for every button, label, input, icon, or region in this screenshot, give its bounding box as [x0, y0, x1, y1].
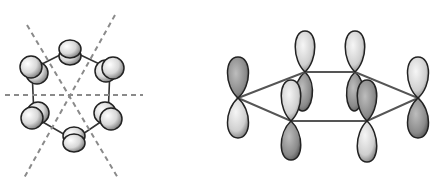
ring-bonds-side [238, 72, 418, 121]
benzene-orbital-diagram [0, 0, 435, 184]
symmetry-axes [5, 15, 143, 178]
side-view [228, 31, 429, 162]
p-orbitals [228, 31, 429, 162]
top-view [5, 15, 143, 178]
